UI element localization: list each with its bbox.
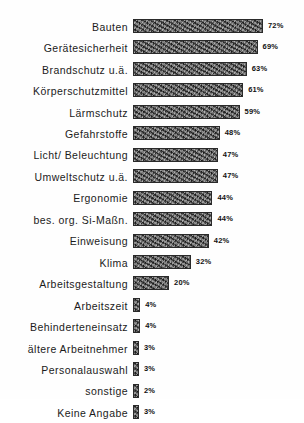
bar-row: Licht/ Beleuchtung47% xyxy=(0,145,304,167)
value-label: 48% xyxy=(225,128,241,138)
bar-and-value: 63% xyxy=(133,62,267,76)
bar xyxy=(133,298,140,312)
bar-and-value: 44% xyxy=(133,212,233,226)
bar-row: Klima32% xyxy=(0,252,304,274)
bar xyxy=(133,384,139,398)
bar-and-value: 4% xyxy=(133,319,156,333)
value-label: 3% xyxy=(144,343,155,353)
category-label: Brandschutz u.ä. xyxy=(0,63,128,77)
bar-and-value: 59% xyxy=(133,105,260,119)
bar xyxy=(133,19,263,33)
category-label: Gefahrstoffe xyxy=(0,127,128,141)
bar xyxy=(133,341,139,355)
category-label: sonstige xyxy=(0,384,128,398)
category-label: Personalauswahl xyxy=(0,363,128,377)
bar xyxy=(133,62,247,76)
bar-and-value: 72% xyxy=(133,19,284,33)
bar-and-value: 48% xyxy=(133,126,240,140)
bar xyxy=(133,126,220,140)
bar xyxy=(133,148,218,162)
bar xyxy=(133,212,212,226)
value-label: 72% xyxy=(268,21,284,31)
category-label: Gerätesicherheit xyxy=(0,41,128,55)
bar xyxy=(133,362,139,376)
bar xyxy=(133,40,258,54)
category-label: Lärmschutz xyxy=(0,106,128,120)
bar-row: ältere Arbeitnehmer3% xyxy=(0,338,304,360)
category-label: ältere Arbeitnehmer xyxy=(0,342,128,356)
value-label: 42% xyxy=(214,236,230,246)
bar-row: Ergonomie44% xyxy=(0,188,304,210)
bar-and-value: 42% xyxy=(133,234,229,248)
value-label: 44% xyxy=(217,193,233,203)
bar-and-value: 2% xyxy=(133,384,155,398)
value-label: 59% xyxy=(245,107,261,117)
bar xyxy=(133,255,191,269)
category-label: bes. org. Si-Maßn. xyxy=(0,213,128,227)
bar xyxy=(133,169,218,183)
bar xyxy=(133,234,209,248)
category-label: Körperschutzmittel xyxy=(0,84,128,98)
bar-row: Arbeitsgestaltung20% xyxy=(0,273,304,295)
category-label: Bauten xyxy=(0,20,128,34)
category-label: Arbeitsgestaltung xyxy=(0,277,128,291)
bar-and-value: 20% xyxy=(133,276,190,290)
bar-and-value: 69% xyxy=(133,40,278,54)
bar-row: Bauten72% xyxy=(0,16,304,38)
bar-row: Personalauswahl3% xyxy=(0,359,304,381)
value-label: 4% xyxy=(145,300,156,310)
value-label: 20% xyxy=(174,278,190,288)
bar-row: Lärmschutz59% xyxy=(0,102,304,124)
bar-row: bes. org. Si-Maßn.44% xyxy=(0,209,304,231)
bar xyxy=(133,105,240,119)
category-label: Einweisung xyxy=(0,234,128,248)
bar xyxy=(133,83,243,97)
bar xyxy=(133,319,140,333)
category-label: Licht/ Beleuchtung xyxy=(0,148,128,162)
value-label: 3% xyxy=(144,364,155,374)
bar-and-value: 3% xyxy=(133,405,155,419)
bar-row: Brandschutz u.ä.63% xyxy=(0,59,304,81)
value-label: 44% xyxy=(217,214,233,224)
value-label: 3% xyxy=(144,407,155,417)
bar-and-value: 4% xyxy=(133,298,156,312)
value-label: 47% xyxy=(223,150,239,160)
category-label: Umweltschutz u.ä. xyxy=(0,170,128,184)
category-label: Arbeitszeit xyxy=(0,299,128,313)
bar-row: Körperschutzmittel61% xyxy=(0,80,304,102)
bar-row: Behinderteneinsatz4% xyxy=(0,316,304,338)
bar-row: Einweisung42% xyxy=(0,231,304,253)
bar-row: Gerätesicherheit69% xyxy=(0,37,304,59)
category-label: Behinderteneinsatz xyxy=(0,320,128,334)
bar-and-value: 47% xyxy=(133,148,238,162)
value-label: 47% xyxy=(223,171,239,181)
bar-row: Gefahrstoffe48% xyxy=(0,123,304,145)
bar-row: Keine Angabe3% xyxy=(0,402,304,423)
category-label: Ergonomie xyxy=(0,191,128,205)
category-label: Klima xyxy=(0,256,128,270)
category-label: Keine Angabe xyxy=(0,406,128,420)
bar-and-value: 3% xyxy=(133,362,155,376)
bar-row: Umweltschutz u.ä.47% xyxy=(0,166,304,188)
bar xyxy=(133,191,212,205)
bar-row: sonstige2% xyxy=(0,381,304,403)
bar-row: Arbeitszeit4% xyxy=(0,295,304,317)
value-label: 69% xyxy=(263,42,279,52)
value-label: 32% xyxy=(196,257,212,267)
value-label: 63% xyxy=(252,64,268,74)
value-label: 61% xyxy=(248,85,264,95)
bar xyxy=(133,276,169,290)
bar-and-value: 32% xyxy=(133,255,211,269)
bar xyxy=(133,405,139,419)
bar-and-value: 44% xyxy=(133,191,233,205)
value-label: 4% xyxy=(145,321,156,331)
bar-and-value: 3% xyxy=(133,341,155,355)
bar-and-value: 61% xyxy=(133,83,264,97)
bar-and-value: 47% xyxy=(133,169,238,183)
value-label: 2% xyxy=(144,386,155,396)
